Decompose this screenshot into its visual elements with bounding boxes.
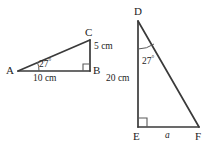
side-label-de: 20 cm bbox=[106, 74, 129, 84]
angle-label-d: 27° bbox=[142, 55, 154, 67]
vertex-label-b: B bbox=[93, 65, 100, 76]
vertex-label-a: A bbox=[6, 65, 14, 76]
side-label-ef: a bbox=[165, 131, 170, 141]
vertex-label-c: C bbox=[85, 27, 92, 38]
angle-label-a-value: 27 bbox=[39, 59, 49, 69]
triangle-abc-shape bbox=[18, 40, 90, 71]
right-angle-mark-b bbox=[83, 64, 90, 71]
degree-symbol-d: ° bbox=[152, 54, 155, 62]
geometry-diagram-canvas: A B C 27° 10 cm 5 cm D E F 27° 20 cm a bbox=[0, 0, 219, 149]
side-label-ab: 10 cm bbox=[33, 74, 56, 84]
segment-df bbox=[138, 21, 199, 127]
vertex-label-d: D bbox=[134, 6, 142, 17]
side-label-cb: 5 cm bbox=[94, 42, 113, 52]
right-angle-mark-e bbox=[138, 118, 147, 127]
vertex-label-f: F bbox=[195, 131, 201, 142]
segment-ac bbox=[18, 40, 90, 71]
vertex-label-e: E bbox=[133, 131, 140, 142]
angle-label-d-value: 27 bbox=[142, 56, 152, 66]
angle-label-a: 27° bbox=[39, 58, 51, 70]
triangle-def-shape bbox=[138, 21, 199, 127]
degree-symbol-a: ° bbox=[49, 57, 52, 65]
